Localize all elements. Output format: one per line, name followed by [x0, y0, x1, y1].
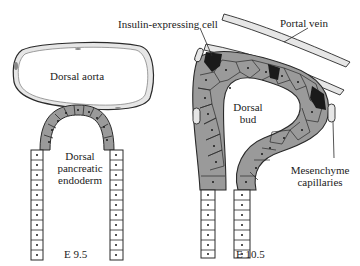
portal-vein-label: Portal vein [280, 17, 328, 29]
endoderm-label-line3: endoderm [50, 174, 110, 186]
dorsal-bud-label-line1: Dorsal [228, 101, 268, 113]
stage-label-e9-5: E 9.5 [64, 248, 87, 260]
pancreas-development-diagram: Dorsal aorta Dorsal pancreatic endoderm … [0, 0, 360, 266]
dorsal-aorta-label: Dorsal aorta [50, 70, 104, 82]
dorsal-bud-label: Dorsal bud [228, 101, 268, 125]
endoderm-label: Dorsal pancreatic endoderm [50, 150, 110, 186]
mesenchyme-label-line1: Mesenchyme [280, 164, 360, 176]
endoderm-label-line1: Dorsal [50, 150, 110, 162]
mesenchyme-leader-line [333, 122, 334, 158]
dorsal-bud-label-line2: bud [228, 113, 268, 125]
stage-label-e10-5: E 10.5 [236, 248, 265, 260]
endoderm-label-line2: pancreatic [50, 162, 110, 174]
diagram-drawing [0, 0, 360, 266]
insulin-cell-label: Insulin-expressing cell [118, 18, 218, 30]
mesenchyme-capillaries-label: Mesenchyme capillaries [280, 164, 360, 188]
mesenchyme-label-line2: capillaries [280, 176, 360, 188]
